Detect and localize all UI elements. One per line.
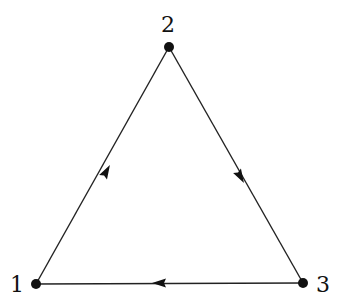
node-label-2: 2: [161, 12, 175, 37]
node-label-3: 3: [316, 272, 330, 297]
edge-3-1: [36, 283, 303, 284]
node-label-1: 1: [10, 272, 24, 297]
arrow-icon-3-1: [152, 279, 166, 288]
triangle-graph: 1 2 3: [0, 0, 345, 306]
node-3: [298, 278, 308, 288]
arrow-icon-1-2: [99, 163, 114, 180]
node-2: [164, 42, 174, 52]
edge-2-3: [169, 47, 303, 283]
node-1: [31, 279, 41, 289]
edge-1-2: [36, 47, 169, 284]
